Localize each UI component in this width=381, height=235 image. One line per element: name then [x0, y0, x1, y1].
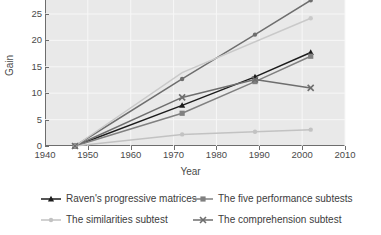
x-tick-label: 1990 [242, 149, 276, 160]
x-tick-mark [216, 146, 217, 150]
legend-item[interactable]: The five performance subtests [192, 188, 381, 209]
legend-label: The comprehension subtest [218, 214, 341, 225]
y-tick-mark [45, 93, 49, 94]
x-tick-mark [259, 146, 260, 150]
x-tick-label: 2010 [328, 149, 362, 160]
legend-marker-square-icon [192, 194, 214, 204]
y-tick-mark [45, 67, 49, 68]
y-tick-mark [45, 146, 49, 147]
legend-label: Raven's progressive matrices [66, 193, 197, 204]
y-tick-label: 20 [22, 35, 42, 44]
y-tick-label: 25 [22, 9, 42, 18]
legend-marker-triangle-icon [40, 194, 62, 204]
y-axis-ticks: 0510152025 [18, 0, 42, 235]
y-axis-title: Gain [4, 43, 15, 89]
legend-marker-circle-icon [40, 215, 62, 225]
x-tick-mark [88, 146, 89, 150]
x-tick-mark [345, 146, 346, 150]
legend-label: The similarities subtest [66, 214, 168, 225]
x-tick-label: 1970 [157, 149, 191, 160]
x-tick-label: 2000 [285, 149, 319, 160]
legend-item[interactable]: The comprehension subtest [192, 209, 381, 230]
x-tick-label: 1940 [28, 149, 62, 160]
x-tick-label: 1950 [71, 149, 105, 160]
x-tick-label: 1960 [114, 149, 148, 160]
x-tick-mark [174, 146, 175, 150]
legend-label: The five performance subtests [218, 193, 353, 204]
y-tick-mark [45, 40, 49, 41]
x-tick-mark [131, 146, 132, 150]
x-tick-mark [302, 146, 303, 150]
y-tick-mark [45, 120, 49, 121]
y-tick-label: 10 [22, 88, 42, 97]
y-tick-mark [45, 14, 49, 15]
y-tick-label: 5 [22, 115, 42, 124]
legend-marker-x-icon [192, 215, 214, 225]
chart-legend: Raven's progressive matricesThe five per… [40, 188, 381, 230]
x-tick-label: 1980 [199, 149, 233, 160]
y-tick-label: 15 [22, 62, 42, 71]
x-axis-title: Year [0, 166, 381, 177]
legend-item[interactable]: Raven's progressive matrices [40, 188, 192, 209]
chart-figure: 0510152025 Gain Year Raven's progressive… [0, 0, 381, 235]
plot-area [45, 0, 345, 146]
legend-item[interactable]: The similarities subtest [40, 209, 192, 230]
